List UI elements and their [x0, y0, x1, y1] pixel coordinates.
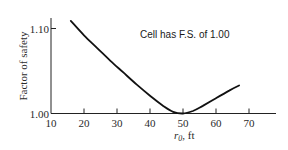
x-tick-label: 10	[46, 117, 58, 129]
y-ticks: 1.001.10	[30, 23, 56, 120]
y-axis-label: Factor of safety	[17, 31, 29, 101]
x-axis-label: r0, ft	[174, 129, 195, 143]
x-tick-label: 50	[178, 117, 190, 129]
x-tick-label: 20	[79, 117, 91, 129]
x-ticks: 10203040506070	[46, 109, 256, 129]
x-tick-label: 40	[145, 117, 157, 129]
factor-of-safety-chart: 1.001.10 10203040506070 Factor of safety…	[0, 0, 288, 150]
y-tick-label: 1.10	[30, 23, 50, 35]
annotation-cell-fs: Cell has F.S. of 1.00	[140, 29, 230, 40]
x-tick-label: 30	[112, 117, 124, 129]
x-tick-label: 70	[244, 117, 256, 129]
x-axis-label-unit: , ft	[182, 129, 194, 141]
x-tick-label: 60	[211, 117, 223, 129]
